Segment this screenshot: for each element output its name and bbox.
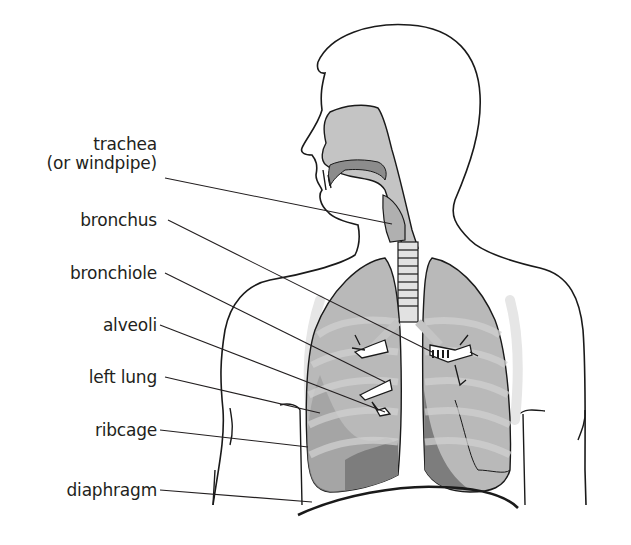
- label-left-lung: left lung: [89, 368, 157, 387]
- label-diaphragm: diaphragm: [67, 481, 157, 500]
- trachea: [398, 242, 418, 322]
- label-trachea: trachea (or windpipe): [47, 135, 157, 173]
- label-trachea-line1: trachea: [47, 135, 157, 154]
- label-trachea-line2: (or windpipe): [47, 154, 157, 173]
- respiratory-diagram: trachea (or windpipe) bronchus bronchiol…: [0, 0, 631, 545]
- label-alveoli: alveoli: [103, 316, 157, 335]
- label-ribcage: ribcage: [95, 421, 157, 440]
- label-bronchus: bronchus: [80, 211, 157, 230]
- label-bronchiole: bronchiole: [70, 264, 157, 283]
